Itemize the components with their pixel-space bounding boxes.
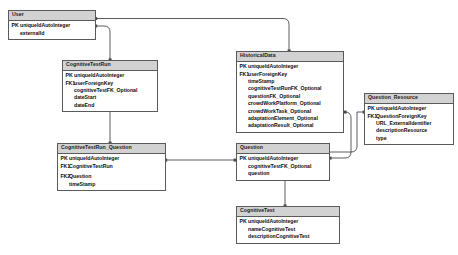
field-name: uniqueIdAutoInteger	[74, 72, 124, 79]
field-name: QuestionForeignKey	[376, 113, 427, 120]
field-name: externalId	[20, 30, 44, 37]
field-row: questionFK_Optional	[237, 93, 343, 100]
entity-cognitivetestrun[interactable]: CognitiveTestRun PK uniqueIdAutoInteger …	[62, 60, 158, 112]
field-row: dateStart	[63, 94, 157, 101]
field-name: adaptationResult_Optional	[248, 122, 314, 129]
field-row: cognitiveTestRunFK_Optional	[237, 85, 343, 92]
field-row: PK uniqueIdAutoInteger	[237, 218, 339, 225]
crowfoot-marker	[344, 111, 347, 114]
entity-cognitivetestrun-fields: PK uniqueIdAutoInteger FK1 userForeignKe…	[63, 71, 157, 112]
field-row: cognitiveTestFK_Optional	[63, 87, 157, 94]
field-row: nameCognitiveTest	[237, 226, 339, 233]
entity-historicaldata[interactable]: HistoricalData PK uniqueIdAutoInteger FK…	[236, 51, 344, 133]
entity-question-resource-title: Question_Resource	[365, 94, 453, 104]
field-key: PK	[58, 155, 69, 162]
field-name: uniqueIdAutoInteger	[20, 22, 70, 29]
entity-question-title: Question	[237, 144, 329, 154]
field-key: PK	[237, 63, 248, 70]
field-name: uniqueIdAutoInteger	[248, 218, 298, 225]
field-row: FK1 QuestionForeignKey	[365, 113, 453, 120]
field-key: PK	[9, 22, 20, 29]
field-row: externalId	[9, 30, 95, 37]
field-name: descriptionCognitiveTest	[248, 233, 309, 240]
field-row: crowdWorkTask_Optional	[237, 108, 343, 115]
field-name: URL_ExternalIdentifier	[376, 120, 431, 127]
field-row: timeStamp	[58, 181, 165, 188]
field-name: descriptionResource	[376, 127, 427, 134]
field-key: FK1	[63, 80, 74, 87]
field-name: cognitiveTestFK_Optional	[74, 87, 137, 94]
field-row: cognitiveTestFK_Optional	[237, 163, 329, 170]
field-name: adaptationElement_Optional	[248, 115, 318, 122]
entity-cognitivetestrun-question-title: CognitiveTestRun_Question	[58, 144, 165, 154]
entity-question-fields: PK uniqueIdAutoInteger cognitiveTestFK_O…	[237, 154, 329, 180]
field-row: PK uniqueIdAutoInteger	[237, 63, 343, 70]
field-name: uniqueIdAutoInteger	[69, 155, 119, 162]
field-row: PK uniqueIdAutoInteger	[365, 105, 453, 112]
field-row: adaptationResult_Optional	[237, 122, 343, 129]
field-row: type	[365, 135, 453, 142]
entity-question-resource-fields: PK uniqueIdAutoInteger FK1 QuestionForei…	[365, 104, 453, 145]
field-name: dateStart	[74, 94, 96, 101]
field-key: PK	[237, 155, 248, 162]
field-name: Question	[69, 173, 91, 180]
field-row: adaptationElement_Optional	[237, 115, 343, 122]
entity-question-resource[interactable]: Question_Resource PK uniqueIdAutoInteger…	[364, 93, 454, 145]
relationship-user-cognitivetestrun	[96, 26, 110, 60]
relationship-user-historicaldata	[96, 19, 289, 52]
field-row: URL_ExternalIdentifier	[365, 120, 453, 127]
entity-question[interactable]: Question PK uniqueIdAutoInteger cognitiv…	[236, 143, 330, 181]
entity-cognitivetestrun-question[interactable]: CognitiveTestRun_Question PK uniqueIdAut…	[57, 143, 166, 191]
field-row: FK1 userForeignKey	[63, 80, 157, 87]
entity-cognitivetest-fields: PK uniqueIdAutoInteger nameCognitiveTest…	[237, 217, 339, 243]
field-key: FK1	[237, 71, 248, 78]
entity-cognitivetestrun-title: CognitiveTestRun	[63, 61, 157, 71]
field-name: userForeignKey	[74, 80, 113, 87]
field-name: questionFK_Optional	[248, 93, 300, 100]
field-name: uniqueIdAutoInteger	[248, 63, 298, 70]
field-name: userForeignKey	[248, 71, 287, 78]
field-name: crowdWorkPlatform_Optional	[248, 100, 321, 107]
field-name: nameCognitiveTest	[248, 226, 295, 233]
field-key: PK	[365, 105, 376, 112]
field-key: FK2	[58, 173, 69, 180]
field-key: FK1	[365, 113, 376, 120]
field-row: crowdWorkPlatform_Optional	[237, 100, 343, 107]
entity-cognitivetest[interactable]: CognitiveTest PK uniqueIdAutoInteger nam…	[236, 206, 340, 244]
field-name: cognitiveTestRunFK_Optional	[248, 85, 321, 92]
field-key: PK	[237, 218, 248, 225]
field-row: PK uniqueIdAutoInteger	[237, 155, 329, 162]
entity-cognitivetest-title: CognitiveTest	[237, 207, 339, 217]
field-name: crowdWorkTask_Optional	[248, 108, 311, 115]
field-row: question	[237, 170, 329, 177]
er-diagram-canvas: User PK uniqueIdAutoInteger externalId C…	[0, 0, 458, 255]
field-name: CognitiveTestRun	[69, 163, 113, 170]
field-name: timeStamp	[248, 78, 274, 85]
field-name: dateEnd	[74, 102, 94, 109]
field-row: FK1 userForeignKey	[237, 71, 343, 78]
entity-historicaldata-fields: PK uniqueIdAutoInteger FK1 userForeignKe…	[237, 62, 343, 132]
field-row: FK1 CognitiveTestRun	[58, 163, 165, 170]
field-key: PK	[63, 72, 74, 79]
field-key: FK1	[58, 163, 69, 170]
entity-historicaldata-title: HistoricalData	[237, 52, 343, 62]
field-row: PK uniqueIdAutoInteger	[58, 155, 165, 162]
field-row: timeStamp	[237, 78, 343, 85]
field-name: cognitiveTestFK_Optional	[248, 163, 311, 170]
field-row: dateEnd	[63, 102, 157, 109]
field-row: FK2 Question	[58, 173, 165, 180]
entity-user-title: User	[9, 11, 95, 21]
entity-user[interactable]: User PK uniqueIdAutoInteger externalId	[8, 10, 96, 40]
entity-user-fields: PK uniqueIdAutoInteger externalId	[9, 21, 95, 40]
field-name: uniqueIdAutoInteger	[376, 105, 426, 112]
field-row: PK uniqueIdAutoInteger	[9, 22, 95, 29]
field-row: PK uniqueIdAutoInteger	[63, 72, 157, 79]
field-row: descriptionResource	[365, 127, 453, 134]
field-name: question	[248, 170, 269, 177]
field-name: type	[376, 135, 387, 142]
field-row: descriptionCognitiveTest	[237, 233, 339, 240]
entity-cognitivetestrun-question-fields: PK uniqueIdAutoInteger FK1 CognitiveTest…	[58, 154, 165, 191]
field-name: uniqueIdAutoInteger	[248, 155, 298, 162]
field-name: timeStamp	[69, 181, 95, 188]
